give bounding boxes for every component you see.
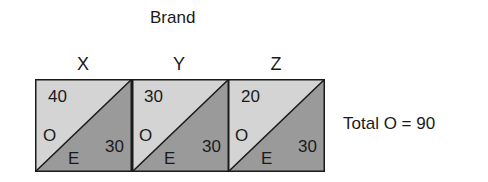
observed-letter: O (139, 126, 152, 146)
cell-z: 20 O E 30 (228, 79, 325, 172)
column-label-x: X (73, 54, 93, 75)
column-label-z: Z (266, 54, 286, 75)
column-label-y: Y (169, 54, 189, 75)
observed-value: 20 (241, 87, 260, 107)
observed-value: 30 (144, 87, 163, 107)
expected-letter: E (68, 149, 79, 169)
cell-y: 30 O E 30 (132, 79, 229, 172)
observed-value: 40 (48, 87, 67, 107)
expected-letter: E (261, 149, 272, 169)
cell-x: 40 O E 30 (35, 79, 132, 172)
diagram-title: Brand (150, 8, 195, 28)
expected-value: 30 (105, 137, 124, 157)
total-observed: Total O = 90 (343, 114, 435, 134)
expected-value: 30 (202, 137, 221, 157)
expected-value: 30 (298, 137, 317, 157)
expected-letter: E (164, 149, 175, 169)
observed-letter: O (235, 126, 248, 146)
observed-letter: O (43, 126, 56, 146)
